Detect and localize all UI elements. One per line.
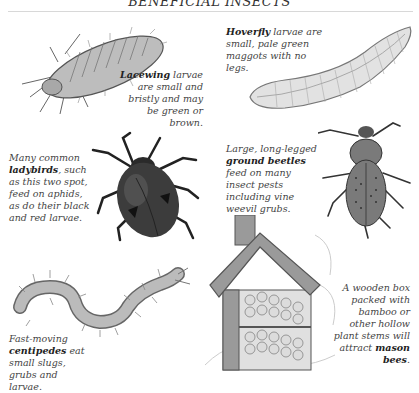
centipede-text-pre: Fast-moving [9,333,68,344]
ground-beetle-name: ground beetles [226,155,306,166]
hoverfly-larva-illustration [245,22,415,112]
ladybird-illustration [88,128,203,243]
mason-bee-text: . [407,354,410,365]
bee-house-illustration [205,215,345,380]
ladybird-caption: Many common ladybirds, such as this two … [9,152,91,224]
lacewing-name: Lacewing [120,69,170,80]
centipede-caption: Fast-moving centipedes eat small slugs, … [9,333,89,393]
ladybird-text-pre: Many common [9,152,80,163]
mason-bee-name: mason bees [375,342,410,365]
centipede-illustration [10,262,190,337]
ground-beetle-text: feed on many insect pests including vine… [226,167,294,214]
ladybird-name: ladybirds [9,164,58,175]
centipede-name: centipedes [9,345,66,356]
title-divider [8,11,413,12]
lacewing-caption: Lacewing larvae are small and bristly an… [115,69,203,129]
mason-bee-caption: A wooden box packed with bamboo or other… [330,282,410,366]
ground-beetle-caption: Large, long-legged ground beetles feed o… [226,143,321,215]
ground-beetle-text-pre: Large, long-legged [226,143,317,154]
page-title: BENEFICIAL INSECTS [0,0,419,9]
